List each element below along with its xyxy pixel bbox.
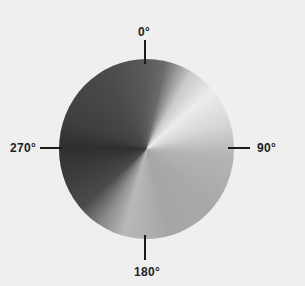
angle-wheel-diagram: 0° 90° 180° 270° [0,0,305,286]
label-270-degrees: 270° [10,141,36,155]
tick-0-degrees [144,40,146,64]
label-90-degrees: 90° [257,141,276,155]
label-180-degrees: 180° [134,265,160,279]
tick-90-degrees [228,147,250,149]
conic-gradient-disc [59,59,234,239]
tick-270-degrees [40,147,62,149]
tick-180-degrees [144,235,146,260]
label-0-degrees: 0° [138,25,150,39]
